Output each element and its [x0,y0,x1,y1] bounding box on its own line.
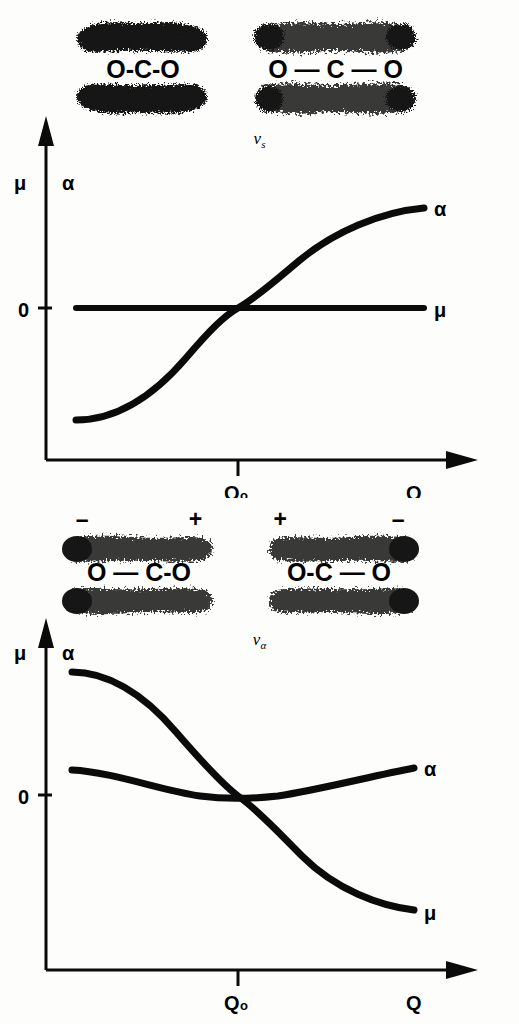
x-axis [46,961,478,979]
x-axis-arrowhead [446,961,478,979]
molecule-row-asymmetric: – + [0,506,519,626]
charge-left: – [76,510,89,528]
charge-row: + – [255,510,423,532]
x-axis-end-label: Q [406,992,422,1014]
molecule-right-extended: + – [255,506,423,626]
curve-label-alpha-end: α [424,758,437,780]
panel-asymmetric-stretch: – + [0,498,519,1024]
xtick-q0-base: Q [224,482,240,498]
curve-mu [72,672,414,910]
charge-left: + [273,510,286,528]
xtick-q0-base: Q [224,992,240,1014]
charge-row: – + [58,510,220,532]
origin-label: 0 [18,786,29,808]
figure-root: O-C-O [0,0,519,1024]
curve-alpha [72,768,414,798]
x-axis [46,451,478,469]
chart-symmetric-stretch: μ α 0 Q o Q α μ [0,108,519,498]
xtick-q0-subscript: o [240,998,248,1013]
molecule-formula: O — C-O [58,558,220,587]
charge-right: + [189,510,202,528]
xtick-q0-subscript: o [240,488,248,498]
curve-label-mu: μ [434,299,446,321]
y-axis-label-mu: μ [14,172,26,194]
y-axis-label-alpha: α [62,172,75,194]
molecule-formula: O-C — O [255,558,423,587]
molecule-formula: O — C — O [248,55,423,84]
curve-alpha [76,208,424,420]
molecule-compressed: O-C-O [68,8,218,128]
x-axis-arrowhead [446,451,478,469]
x-axis-end-label: Q [406,482,422,498]
curve-label-mu-end: μ [424,902,436,924]
chart-asymmetric-stretch: μ α 0 Q o Q α μ [0,610,519,1020]
y-axis-label-mu: μ [14,642,26,664]
curve-label-alpha: α [434,198,447,220]
y-axis-label-alpha: α [62,642,75,664]
origin-label: 0 [18,299,29,321]
y-axis-arrowhead [38,116,54,146]
charge-right: – [392,510,405,528]
molecule-formula: O-C-O [68,55,218,84]
panel-symmetric-stretch: O-C-O [0,0,519,500]
molecule-left-extended: – + [58,506,220,626]
molecule-extended: O — C — O [248,8,423,128]
y-axis [38,116,54,460]
y-axis-arrowhead [38,618,54,648]
